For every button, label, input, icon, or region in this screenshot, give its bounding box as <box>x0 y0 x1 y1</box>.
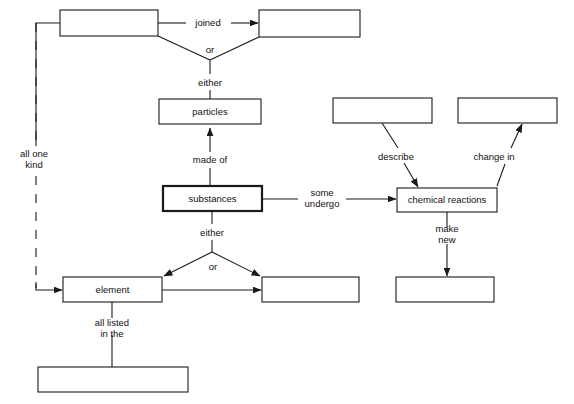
link-label-line: all listed <box>95 317 129 328</box>
link-label-line: in the <box>100 328 123 339</box>
node-molecules-blank[interactable] <box>259 10 360 37</box>
link-label-all-one-kind: all one kind <box>20 148 48 170</box>
link-label-line: new <box>438 234 456 245</box>
link-label-either-bottom: either <box>200 227 224 238</box>
link-label-or-bottom: or <box>209 261 217 272</box>
node-periodic-table-blank[interactable] <box>38 367 188 392</box>
link-label-line: make <box>435 223 458 234</box>
link-label-line: kind <box>25 159 42 170</box>
node-substances[interactable]: substances <box>163 186 262 211</box>
concept-map-canvas: particles substances chemical reactions … <box>0 0 574 404</box>
link-label-describe: describe <box>378 151 414 162</box>
node-label: particles <box>192 106 228 117</box>
link-label-line: undergo <box>305 198 340 209</box>
link-label-line: all one <box>20 148 48 159</box>
concept-map-worksheet: particles substances chemical reactions … <box>0 0 574 404</box>
link-label-joined: joined <box>194 17 220 28</box>
link-label-change-in: change in <box>473 151 514 162</box>
node-element[interactable]: element <box>63 277 162 302</box>
node-label: element <box>96 284 130 295</box>
node-describe-blank[interactable] <box>333 98 432 123</box>
node-change-in-blank[interactable] <box>458 98 557 123</box>
node-particles[interactable]: particles <box>159 99 261 124</box>
node-label: substances <box>188 193 236 204</box>
link-label-made-of: made of <box>193 154 228 165</box>
node-new-substances-blank[interactable] <box>396 277 494 302</box>
node-atoms-blank[interactable] <box>60 10 158 36</box>
node-compound-blank[interactable] <box>262 277 359 302</box>
node-chemical-reactions[interactable]: chemical reactions <box>397 188 497 212</box>
link-label-make-new: make new <box>435 223 458 245</box>
link-label-some-undergo: some undergo <box>305 187 340 209</box>
node-label: chemical reactions <box>408 194 487 205</box>
link-label-all-listed-in-the: all listed in the <box>95 317 129 339</box>
link-label-or-top: or <box>206 44 214 55</box>
link-label-either-top: either <box>198 77 222 88</box>
link-label-line: some <box>310 187 333 198</box>
